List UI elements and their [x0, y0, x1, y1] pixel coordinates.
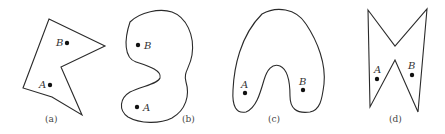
curve-shape-c — [233, 9, 324, 112]
point-b-dot — [65, 41, 69, 45]
point-b-dot — [410, 73, 414, 77]
panel-caption-d: (d) — [389, 114, 402, 124]
figure-canvas: B A (a) B A (b) A B (c) A — [0, 0, 445, 134]
point-b-label: B — [298, 76, 306, 87]
panel-b: B A (b) — [121, 10, 194, 124]
point-a-label: A — [38, 79, 46, 90]
point-a-dot — [135, 105, 139, 109]
polygon-shape-d — [368, 9, 427, 112]
panel-c: A B (c) — [233, 9, 324, 124]
point-a-dot — [375, 77, 379, 81]
point-a-label: A — [373, 64, 381, 75]
panel-a: B A (a) — [23, 19, 105, 124]
point-a-dot — [243, 91, 247, 95]
panel-caption-c: (c) — [268, 114, 280, 124]
panel-caption-a: (a) — [45, 114, 57, 124]
point-a-label: A — [142, 102, 150, 113]
point-b-label: B — [55, 37, 63, 48]
point-a-dot — [48, 83, 52, 87]
panel-caption-b: (b) — [182, 114, 195, 124]
point-b-label: B — [143, 40, 151, 51]
point-b-dot — [136, 43, 140, 47]
point-b-label: B — [407, 60, 415, 71]
curve-shape-b — [121, 10, 192, 122]
figure: B A (a) B A (b) A B (c) A — [0, 0, 445, 134]
panel-d: A B (d) — [368, 9, 427, 124]
point-a-label: A — [240, 79, 248, 90]
polygon-shape-a — [23, 19, 105, 115]
point-b-dot — [301, 88, 305, 92]
